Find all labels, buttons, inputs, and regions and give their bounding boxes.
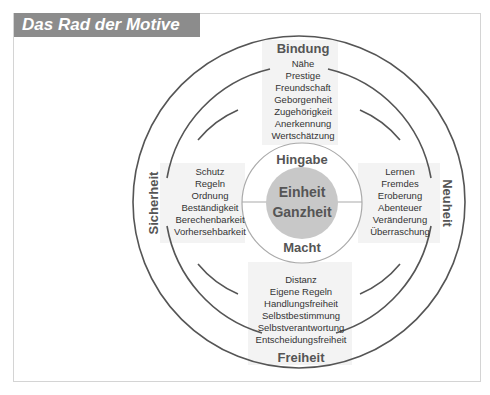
item: Prestige [286,70,321,81]
heading-sicherheit: Sicherheit [146,171,161,235]
item: Beständigkeit [181,202,238,213]
item: Ordnung [192,190,229,201]
item: Veränderung [373,214,427,225]
item: Schutz [195,166,224,177]
item: Selbstbestimmung [262,310,340,321]
heading-freiheit: Freiheit [278,350,326,365]
item: Anerkennung [275,118,332,129]
item: Handlungsfreiheit [264,298,338,309]
label-ganzheit: Ganzheit [272,204,331,220]
item: Berechenbarkeit [175,214,245,225]
item: Abenteuer [378,202,422,213]
label-macht: Macht [283,240,321,255]
heading-neuheit: Neuheit [440,179,455,227]
core-disc [266,167,338,239]
label-einheit: Einheit [279,184,326,200]
item: Selbstverantwortung [258,322,345,333]
item: Fremdes [381,178,419,189]
item: Geborgenheit [274,94,332,105]
item: Wertschätzung [271,130,334,141]
label-hingabe: Hingabe [276,152,327,167]
item: Nähe [292,58,315,69]
item: Zugehörigkeit [274,106,332,117]
motive-wheel: Hingabe Einheit Ganzheit Macht Bindung N… [0,0,490,395]
item: Freundschaft [275,82,331,93]
item: Distanz [285,274,317,285]
item: Vorhersehbarkeit [174,226,246,237]
item: Entscheidungsfreiheit [256,334,347,345]
item: Eigene Regeln [270,286,332,297]
item: Eroberung [378,190,422,201]
heading-bindung: Bindung [277,41,330,56]
item: Lernen [385,166,415,177]
item: Überraschung [370,226,430,237]
item: Regeln [195,178,225,189]
